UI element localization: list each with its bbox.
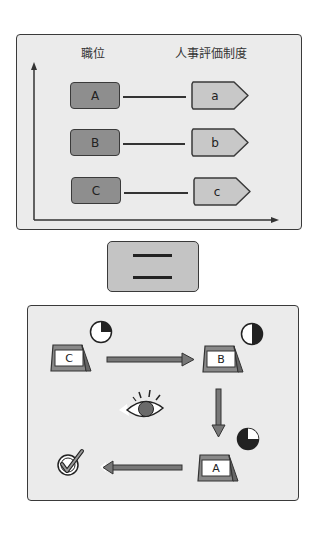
arrow-left-icon: [98, 458, 186, 478]
position-card-c: C: [48, 342, 94, 370]
axes: [0, 0, 319, 240]
position-card-label-a: A: [202, 460, 230, 476]
arrow-right-icon: [105, 350, 197, 370]
pie-three-quarter-icon: [236, 427, 260, 451]
evaluation-label-b: b: [191, 128, 239, 157]
evaluation-tag-b: b: [191, 128, 251, 157]
equals-icon: [133, 254, 172, 257]
position-card-a: A: [195, 452, 241, 480]
pie-quarter-icon: [89, 320, 113, 344]
equals-icon-lower: [133, 276, 172, 279]
eye-icon: [115, 388, 171, 424]
connector-line-b: [123, 143, 185, 145]
evaluation-system-header: 人事評価制度: [165, 44, 257, 61]
position-box-c: C: [71, 177, 121, 204]
position-box-a: A: [70, 82, 120, 109]
arrow-down-icon: [209, 388, 229, 440]
equals-box: [107, 241, 199, 292]
evaluation-tag-c: c: [193, 177, 253, 206]
evaluation-tag-a: a: [191, 81, 251, 110]
position-box-b: B: [70, 129, 120, 156]
checkmark-icon: [54, 445, 88, 479]
connector-line-a: [123, 96, 186, 98]
position-card-b: B: [200, 343, 246, 371]
connector-line-c: [124, 192, 188, 194]
evaluation-label-c: c: [193, 177, 241, 206]
position-card-label-b: B: [207, 351, 235, 367]
evaluation-label-a: a: [191, 81, 239, 110]
position-card-label-c: C: [55, 350, 83, 366]
position-header: 職位: [68, 44, 118, 61]
